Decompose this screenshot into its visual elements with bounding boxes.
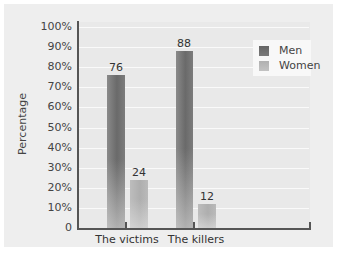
bar-victims-women xyxy=(130,180,148,228)
x-tick-victims xyxy=(125,222,127,229)
ytick-100: 100% xyxy=(30,21,72,33)
bar-killers-women xyxy=(198,204,216,228)
bar-killers-men xyxy=(176,51,193,228)
legend: Men Women xyxy=(253,40,311,76)
men-swatch-icon xyxy=(259,46,269,56)
label-killers-women: 12 xyxy=(192,191,222,203)
legend-label-women: Women xyxy=(279,59,320,72)
ytick-50: 50% xyxy=(30,122,72,134)
bar-victims-men xyxy=(107,75,125,228)
legend-label-men: Men xyxy=(279,44,302,57)
ytick-20: 20% xyxy=(30,182,72,194)
ytick-70: 70% xyxy=(30,81,72,93)
ytick-40: 40% xyxy=(30,142,72,154)
ytick-60: 60% xyxy=(30,101,72,113)
ytick-10: 10% xyxy=(30,202,72,214)
y-axis xyxy=(77,21,79,229)
label-victims-women: 24 xyxy=(124,167,154,179)
label-victims-men: 76 xyxy=(101,62,131,74)
y-axis-label: Percentage xyxy=(16,93,29,155)
ytick-90: 90% xyxy=(30,41,72,53)
category-label-victims: The victims xyxy=(95,233,158,246)
ytick-30: 30% xyxy=(30,162,72,174)
ytick-80: 80% xyxy=(30,61,72,73)
category-label-killers: The killers xyxy=(168,233,225,246)
gridline-100 xyxy=(79,27,309,28)
women-swatch-icon xyxy=(259,61,269,71)
label-killers-men: 88 xyxy=(169,38,199,50)
ytick-0: 0 xyxy=(30,222,72,234)
x-tick-end xyxy=(309,222,311,229)
x-tick-killers xyxy=(193,222,195,229)
